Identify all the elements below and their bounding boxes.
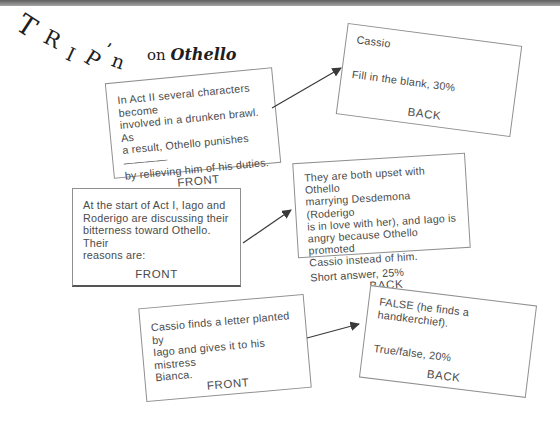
arrow-overlay xyxy=(0,0,560,424)
front-to-back-arrow-1 xyxy=(272,68,341,108)
worksheet-page: T R I P ’ n on Othello In Act II several… xyxy=(0,0,560,424)
front-to-back-arrow-3 xyxy=(307,324,359,338)
front-to-back-arrow-2 xyxy=(243,210,291,243)
